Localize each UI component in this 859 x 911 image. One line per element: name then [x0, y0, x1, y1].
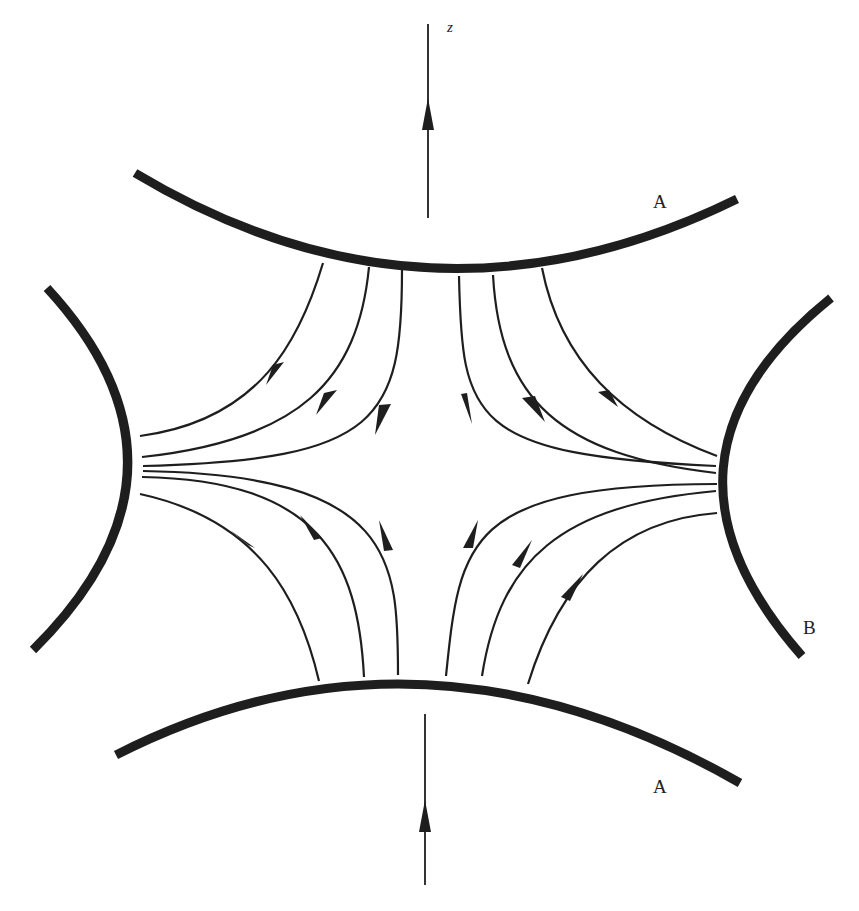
label-ring-right: B: [803, 617, 816, 638]
field-lines-lower-right: [446, 484, 717, 684]
endcap-electrode-top: [135, 173, 737, 269]
field-lines-lower-left: [140, 471, 398, 681]
arrow-icon: [522, 396, 545, 422]
arrow-icon: [300, 515, 322, 540]
arrow-icon: [463, 520, 478, 548]
arrow-icon: [316, 390, 337, 415]
z-axis-top: [422, 24, 434, 218]
z-arrow-up-icon: [422, 98, 434, 130]
arrow-icon: [379, 520, 393, 551]
ring-electrode-right: [723, 298, 831, 656]
arrow-icon: [561, 574, 583, 601]
z-arrow-up-icon-bottom: [419, 800, 431, 832]
arrow-icon: [266, 362, 284, 385]
z-axis-label: z: [446, 19, 453, 35]
ion-trap-field-diagram: z A B A: [0, 0, 859, 911]
arrow-icon: [230, 530, 255, 548]
endcap-electrode-bottom: [116, 684, 740, 783]
ring-electrode-left: [33, 288, 128, 650]
arrow-icon: [461, 393, 472, 424]
label-endcap-bottom: A: [653, 776, 667, 797]
z-axis-bottom: [419, 714, 431, 885]
field-lines-upper-left: [140, 263, 402, 466]
label-endcap-top: A: [653, 191, 667, 212]
field-lines-upper-right: [459, 268, 717, 473]
arrow-icon: [375, 404, 391, 435]
